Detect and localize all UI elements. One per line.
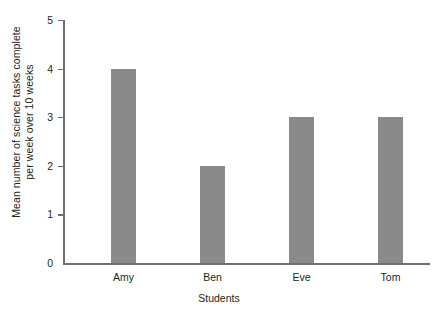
x-axis-title: Students bbox=[0, 292, 438, 304]
y-tick-label-2: 2 bbox=[33, 161, 53, 171]
bar-tom bbox=[378, 117, 403, 263]
y-axis-title-line-1: Mean number of science tasks complete bbox=[10, 26, 23, 218]
y-tick-label-5: 5 bbox=[33, 15, 53, 25]
y-tick-label-4: 4 bbox=[33, 64, 53, 74]
y-tick-mark-1 bbox=[58, 214, 63, 215]
y-tick-mark-4 bbox=[58, 69, 63, 70]
x-tick-label-eve: Eve bbox=[267, 272, 337, 283]
y-tick-mark-5 bbox=[58, 20, 63, 21]
bar-amy bbox=[111, 69, 136, 263]
y-tick-label-0: 0 bbox=[33, 258, 53, 268]
y-axis-line bbox=[63, 20, 65, 263]
bar-eve bbox=[289, 117, 314, 263]
bar-ben bbox=[200, 166, 225, 263]
y-tick-label-1: 1 bbox=[33, 209, 53, 219]
y-tick-mark-3 bbox=[58, 117, 63, 118]
y-tick-mark-2 bbox=[58, 166, 63, 167]
x-tick-label-amy: Amy bbox=[89, 272, 159, 283]
bar-chart-figure: Mean number of science tasks complete pe… bbox=[0, 0, 438, 314]
x-tick-label-ben: Ben bbox=[178, 272, 248, 283]
y-tick-label-3: 3 bbox=[33, 112, 53, 122]
x-axis-line bbox=[63, 263, 430, 265]
plot-area: Amy Ben Eve Tom bbox=[63, 20, 430, 263]
x-tick-label-tom: Tom bbox=[356, 272, 426, 283]
